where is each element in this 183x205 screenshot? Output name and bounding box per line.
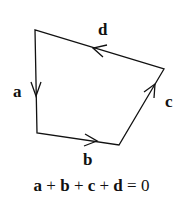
label-c: c [165,92,173,111]
eq-plus: + [74,176,84,195]
eq-equals: = [127,176,137,195]
eq-term-b: b [60,176,69,195]
eq-term-d: d [113,176,122,195]
label-b: b [83,150,92,169]
eq-plus: + [46,176,56,195]
vector-diagram: d a c b [0,0,183,205]
eq-rhs: 0 [141,176,150,195]
label-a: a [13,82,22,101]
eq-term-c: c [88,176,96,195]
eq-plus: + [100,176,110,195]
eq-term-a: a [34,176,43,195]
label-d: d [98,20,108,39]
vector-sum-equation: a + b + c + d = 0 [0,176,183,196]
